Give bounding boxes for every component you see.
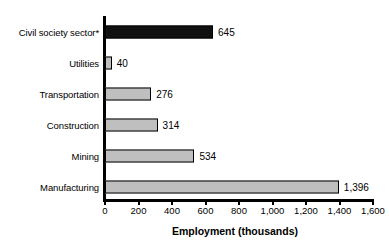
category-label-construction: Construction xyxy=(0,119,99,130)
x-axis-tick-label: 1,200 xyxy=(294,205,318,217)
category-label-transportation: Transportation xyxy=(0,88,99,99)
bar-value-manufacturing: 1,396 xyxy=(344,181,369,192)
x-axis-tick-label: 400 xyxy=(164,205,180,217)
x-axis-tick-label: 800 xyxy=(231,205,247,217)
bar-civil-society-sector[interactable] xyxy=(105,25,213,38)
bar-value-construction: 314 xyxy=(163,119,180,130)
bar-construction[interactable] xyxy=(105,118,158,131)
x-axis-tick-label: 0 xyxy=(102,205,107,217)
x-axis-tick-labels: 02004006008001,0001,2001,4001,600 xyxy=(0,205,389,219)
bar-value-civil-society-sector: 645 xyxy=(218,26,235,37)
category-label-utilities: Utilities xyxy=(0,57,99,68)
bar-value-mining: 534 xyxy=(199,150,216,161)
table-row: Manufacturing 1,396 xyxy=(0,171,389,202)
bar-manufacturing[interactable] xyxy=(105,180,339,193)
category-label-civil-society-sector: Civil society sector* xyxy=(0,26,99,37)
x-axis-tick-label: 1,600 xyxy=(361,205,385,217)
bar-value-transportation: 276 xyxy=(156,88,173,99)
table-row: Civil society sector* 645 xyxy=(0,16,389,47)
category-label-mining: Mining xyxy=(0,150,99,161)
bar-transportation[interactable] xyxy=(105,87,151,100)
table-row: Mining 534 xyxy=(0,140,389,171)
bar-rows: Civil society sector* 645 Utilities 40 T… xyxy=(0,16,389,202)
table-row: Construction 314 xyxy=(0,109,389,140)
x-axis-tick-label: 200 xyxy=(131,205,147,217)
x-axis-title: Employment (thousands) xyxy=(90,225,380,238)
category-label-manufacturing: Manufacturing xyxy=(0,181,99,192)
table-row: Utilities 40 xyxy=(0,47,389,78)
x-axis-tick-label: 600 xyxy=(198,205,214,217)
x-axis-tick-label: 1,000 xyxy=(261,205,285,217)
bar-chart: Civil society sector* 645 Utilities 40 T… xyxy=(0,0,389,246)
x-axis-tick-label: 1,400 xyxy=(328,205,352,217)
bar-mining[interactable] xyxy=(105,149,194,162)
bar-value-utilities: 40 xyxy=(117,57,128,68)
bar-utilities[interactable] xyxy=(105,56,112,69)
table-row: Transportation 276 xyxy=(0,78,389,109)
plot-area: Civil society sector* 645 Utilities 40 T… xyxy=(0,0,389,246)
